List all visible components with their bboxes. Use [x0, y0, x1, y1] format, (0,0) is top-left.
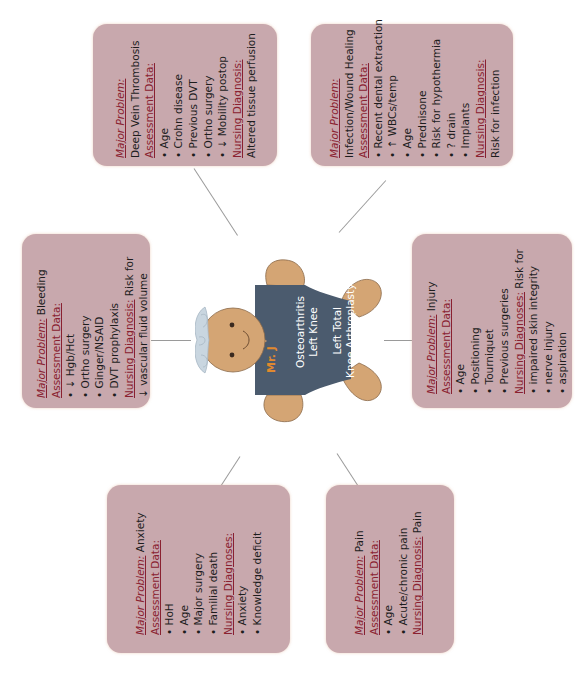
assessment-label: Assessment Data: — [49, 257, 64, 398]
assessment-item: • Ginger/NSAID — [92, 257, 107, 398]
nursing-diagnosis-value: Risk for infection — [488, 19, 503, 158]
major-problem-value: Injury — [425, 281, 437, 311]
nursing-diagnosis-label: Nursing Diagnosis: — [230, 33, 245, 158]
assessment-label: Assessment Data: — [142, 33, 157, 158]
assessment-item: • Age — [177, 513, 192, 635]
nursing-diagnosis-cont: ↓ vascular fluid volume — [136, 257, 151, 398]
major-problem-label: Major Problem: — [425, 315, 437, 394]
assessment-label: Assessment Data: — [367, 511, 382, 635]
diagnosis-line: Osteoarthritis — [294, 296, 307, 368]
major-problem-value: Deep Vein Thrombosis — [128, 33, 143, 158]
major-problem-label: Major Problem: — [134, 556, 146, 635]
assessment-item: • Tourniquet — [482, 249, 497, 394]
assessment-item: • Positioning — [468, 249, 483, 394]
assessment-item: • Age — [400, 19, 415, 158]
assessment-item: • Prednisone — [415, 19, 430, 158]
assessment-item: • Implants — [458, 19, 473, 158]
box-injury: Major Problem: Injury Assessment Data: •… — [412, 234, 572, 408]
assessment-item: • Recent dental extraction — [371, 19, 386, 158]
assessment-item: • Previous surgeries — [497, 249, 512, 394]
assessment-item: • DVT prophylaxis — [107, 257, 122, 398]
nursing-diagnosis-label: Nursing Diagnoses: — [221, 513, 236, 635]
major-problem-value: Anxiety — [134, 513, 146, 553]
box-pain: Major Problem: Pain Assessment Data: • A… — [326, 485, 454, 653]
box-text: Major Problem: Bleeding Assessment Data:… — [34, 257, 151, 398]
assessment-item: • Age — [381, 511, 396, 635]
patient-name: Mr. J — [265, 346, 280, 373]
box-text: Major Problem: Pain Assessment Data: • A… — [352, 511, 425, 635]
diagnosis-line: Left Knee — [307, 296, 320, 368]
box-text: Major Problem: Infection/Wound Healing A… — [327, 19, 502, 158]
major-problem-value: Pain — [353, 530, 365, 552]
patient-head — [201, 308, 265, 372]
connector-dvt — [194, 168, 238, 236]
connector-bleeding — [151, 340, 191, 341]
nursing-diagnosis-value: Risk for — [513, 249, 525, 289]
assessment-item: • Ortho surgery — [201, 33, 216, 158]
connector-infection — [339, 180, 387, 233]
major-problem-value: Bleeding — [35, 269, 47, 315]
procedure-line: Left Total — [331, 284, 344, 378]
nursing-diagnosis-value: Pain — [411, 511, 423, 533]
patient-procedure: Left Total Knee Arthroplasty — [331, 284, 357, 378]
assessment-item: • Previous DVT — [186, 33, 201, 158]
box-bleeding: Major Problem: Bleeding Assessment Data:… — [22, 234, 150, 408]
nursing-diagnosis-label: Nursing Diagnosis: — [411, 537, 423, 635]
nursing-diagnosis-value: Altered tissue perfusion — [244, 33, 259, 158]
assessment-item: • Crohn disease — [171, 33, 186, 158]
patient-diagnosis: Osteoarthritis Left Knee — [294, 296, 320, 368]
patient-leg-left — [264, 395, 303, 422]
major-problem-value: Infection/Wound Healing — [342, 19, 357, 158]
patient-arm-left — [266, 260, 305, 287]
connector-injury — [384, 340, 414, 341]
patient-eye — [230, 353, 235, 358]
assessment-item: • Major surgery — [191, 513, 206, 635]
assessment-item: • Familial death — [206, 513, 221, 635]
assessment-item: • ↓ Mobility postop — [215, 33, 230, 158]
assessment-label: Assessment Data: — [356, 19, 371, 158]
nursing-diagnosis-item: • Anxiety — [235, 513, 250, 635]
box-text: Major Problem: Deep Vein Thrombosis Asse… — [113, 33, 259, 158]
assessment-item: • ↑ WBCs/temp — [385, 19, 400, 158]
nursing-diagnosis-label: Nursing Diagnoses: — [513, 292, 525, 394]
nursing-diagnosis-item: • aspiration — [555, 249, 570, 394]
major-problem-label: Major Problem: — [113, 33, 128, 158]
nursing-diagnosis-label: Nursing Diagnosis: — [473, 19, 488, 158]
assessment-item: • Acute/chronic pain — [396, 511, 411, 635]
nursing-diagnosis-item: • Knowledge deficit — [250, 513, 265, 635]
assessment-item: • HoH — [162, 513, 177, 635]
major-problem-label: Major Problem: — [35, 319, 47, 398]
box-anxiety: Major Problem: Anxiety Assessment Data: … — [107, 485, 290, 653]
nursing-diagnosis-value: Risk for — [123, 257, 135, 297]
box-text: Major Problem: Injury Assessment Data: •… — [424, 249, 570, 394]
box-deep-vein-thrombosis: Major Problem: Deep Vein Thrombosis Asse… — [93, 24, 277, 166]
assessment-item: • ? drain — [444, 19, 459, 158]
assessment-label: Assessment Data: — [148, 513, 163, 635]
assessment-label: Assessment Data: — [439, 249, 454, 394]
box-text: Major Problem: Anxiety Assessment Data: … — [133, 513, 264, 635]
nursing-diagnosis-label: Nursing Diagnosis: — [123, 300, 135, 398]
assessment-item: • ↓ Hgb/Hct — [63, 257, 78, 398]
nursing-diagnosis-item: • impaired skin integrity — [526, 249, 541, 394]
major-problem-label: Major Problem: — [327, 19, 342, 158]
procedure-line: Knee Arthroplasty — [344, 284, 357, 378]
nursing-diagnosis-item: • nerve injury — [541, 249, 556, 394]
assessment-item: • Age — [453, 249, 468, 394]
box-infection-wound-healing: Major Problem: Infection/Wound Healing A… — [311, 24, 513, 166]
assessment-item: • Age — [157, 33, 172, 158]
assessment-item: • Ortho surgery — [78, 257, 93, 398]
patient-eye — [230, 323, 235, 328]
assessment-item: • Risk for hypothermia — [429, 19, 444, 158]
major-problem-label: Major Problem: — [353, 556, 365, 635]
